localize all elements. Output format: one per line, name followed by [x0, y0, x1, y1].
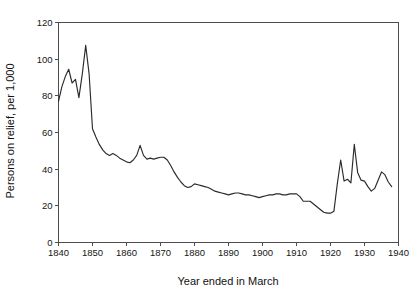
x-tick-label-1940: 1940: [388, 247, 409, 258]
y-axis-title: Persons on relief, per 1,000: [4, 63, 16, 198]
x-tick-label-1900: 1900: [252, 247, 273, 258]
x-tick-label-1920: 1920: [320, 247, 341, 258]
x-tick-label-1880: 1880: [184, 247, 205, 258]
line-chart: 020406080100120 184018501860187018801890…: [0, 0, 418, 298]
scan-artifact-top-right: [255, 0, 335, 7]
y-tick-label-40: 40: [42, 164, 53, 175]
y-tick-label-60: 60: [42, 127, 53, 138]
x-tick-label-1890: 1890: [218, 247, 239, 258]
x-axis-tick-labels: 1840185018601870188018901900191019201930…: [48, 247, 409, 258]
y-tick-label-20: 20: [42, 200, 53, 211]
chart-figure: 020406080100120 184018501860187018801890…: [0, 0, 418, 298]
x-tick-label-1840: 1840: [48, 247, 69, 258]
y-tick-label-80: 80: [42, 90, 53, 101]
x-tick-label-1870: 1870: [150, 247, 171, 258]
x-tick-label-1850: 1850: [82, 247, 103, 258]
x-axis-title: Year ended in March: [177, 275, 278, 287]
x-tick-label-1910: 1910: [286, 247, 307, 258]
y-tick-label-120: 120: [37, 17, 53, 28]
x-tick-label-1860: 1860: [116, 247, 137, 258]
x-tick-label-1930: 1930: [354, 247, 375, 258]
scan-artifact-top-left: [2, 0, 42, 7]
y-tick-label-100: 100: [37, 54, 53, 65]
